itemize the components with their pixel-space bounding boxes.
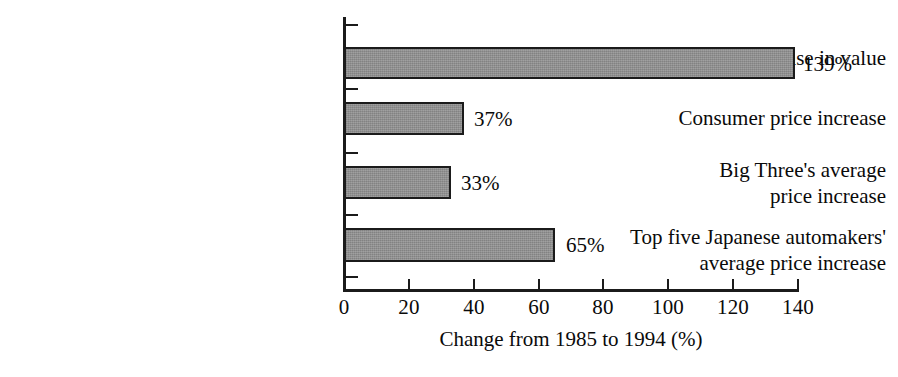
- x-axis-line: [343, 289, 799, 292]
- x-axis-tick-label: 100: [638, 294, 698, 320]
- x-axis-tick-label: 20: [379, 294, 439, 320]
- x-axis-tick-label: 140: [768, 294, 828, 320]
- y-axis-tick: [346, 88, 358, 90]
- y-axis-tick: [346, 152, 358, 154]
- y-axis-tick: [346, 276, 358, 278]
- y-axis-tick: [346, 214, 358, 216]
- category-label-big-three: Big Three's average price increase: [580, 157, 898, 209]
- bar-value-top-five-japanese: 65%: [566, 233, 605, 257]
- x-axis-tick-label: 40: [444, 294, 504, 320]
- x-axis-tick-label: 120: [703, 294, 763, 320]
- bar-consumer-price: [343, 102, 464, 135]
- x-axis-tick: [408, 279, 410, 290]
- bar-big-three: [343, 166, 451, 199]
- x-axis-tick: [343, 279, 345, 290]
- x-axis-tick: [797, 279, 799, 290]
- category-label-top-five-japanese: Top five Japanese automakers' average pr…: [580, 224, 898, 276]
- bar-value-big-three: 33%: [461, 171, 500, 195]
- x-axis-title: Change from 1985 to 1994 (%): [343, 326, 799, 352]
- x-axis-tick-label: 60: [509, 294, 569, 320]
- bar-top-five-japanese: [343, 228, 555, 262]
- x-axis-tick-label: 0: [314, 294, 374, 320]
- bar-value-yen: 139%: [803, 52, 852, 76]
- x-axis-tick: [538, 279, 540, 290]
- y-axis-tick: [346, 24, 358, 26]
- y-axis-line: [343, 17, 346, 292]
- x-axis-tick: [602, 279, 604, 290]
- x-axis-tick: [667, 279, 669, 290]
- x-axis-tick: [732, 279, 734, 290]
- category-label-consumer-price: Consumer price increase: [580, 105, 898, 131]
- x-axis-tick-label: 80: [573, 294, 633, 320]
- bar-value-consumer-price: 37%: [474, 107, 513, 131]
- bar-chart: Yen's increase in value Consumer price i…: [0, 0, 898, 377]
- x-axis-tick: [473, 279, 475, 290]
- bar-yen: [343, 47, 795, 79]
